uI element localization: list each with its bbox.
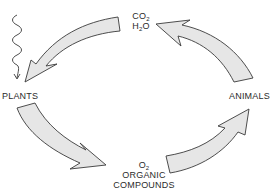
arrow-plants-to-organic — [17, 103, 106, 169]
co2-h2o-label: CO2 H2O — [124, 11, 158, 31]
sunlight-wavy-arrow-icon — [13, 15, 22, 79]
co2-line: CO2 — [124, 11, 158, 21]
co2-text: CO — [132, 11, 146, 21]
arrow-co2-to-plants — [25, 17, 120, 82]
compounds-line: COMPOUNDS — [104, 180, 184, 190]
organic-line: ORGANIC — [104, 170, 184, 180]
h2o-o-text: O — [143, 21, 150, 31]
h2o-line: H2O — [124, 21, 158, 31]
plants-label: PLANTS — [2, 91, 38, 101]
arrow-animals-to-co2 — [156, 20, 253, 82]
animals-label: ANIMALS — [229, 91, 270, 101]
o2-text: O — [139, 160, 146, 170]
o2-line: O2 — [104, 160, 184, 170]
o2-organic-compounds-label: O2 ORGANIC COMPOUNDS — [104, 160, 184, 190]
h2o-h-text: H — [132, 21, 139, 31]
